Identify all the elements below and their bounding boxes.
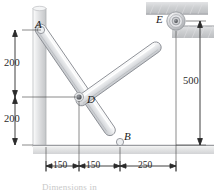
figure-caption: Dimensions in xyxy=(42,182,97,190)
mechanism-figure: A D B E 200 200 500 150 150 250 Dimensio… xyxy=(0,0,214,190)
dimension-value-250: 250 xyxy=(138,161,152,171)
dimension-value-200-upper: 200 xyxy=(4,58,20,69)
point-label-E: E xyxy=(156,14,163,25)
dimension-value-500: 500 xyxy=(183,76,199,87)
point-label-B: B xyxy=(124,131,131,142)
support-ground xyxy=(33,145,214,154)
point-label-A: A xyxy=(35,19,42,30)
dimension-value-150-a: 150 xyxy=(53,161,67,171)
point-label-D: D xyxy=(87,94,95,105)
dimension-value-150-b: 150 xyxy=(86,161,100,171)
bearing-E xyxy=(167,12,185,30)
figure-canvas xyxy=(0,0,214,190)
dimension-value-200-lower: 200 xyxy=(4,114,20,125)
